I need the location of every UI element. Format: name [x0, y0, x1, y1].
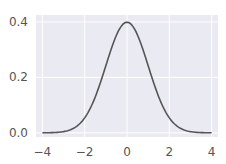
x-tick-label: −4 [33, 145, 51, 159]
y-tick-label: 0.2 [9, 70, 28, 84]
x-tick-label: 2 [166, 145, 174, 159]
chart: 0.00.20.4 −4−2024 [0, 0, 226, 164]
x-tick-label: −2 [76, 145, 94, 159]
x-axis-ticks: −4−2024 [33, 145, 215, 159]
y-tick-label: 0.0 [9, 126, 28, 140]
x-tick-label: 0 [123, 145, 131, 159]
y-tick-label: 0.4 [9, 15, 28, 29]
x-tick-label: 4 [208, 145, 216, 159]
y-axis-ticks: 0.00.20.4 [9, 15, 28, 140]
